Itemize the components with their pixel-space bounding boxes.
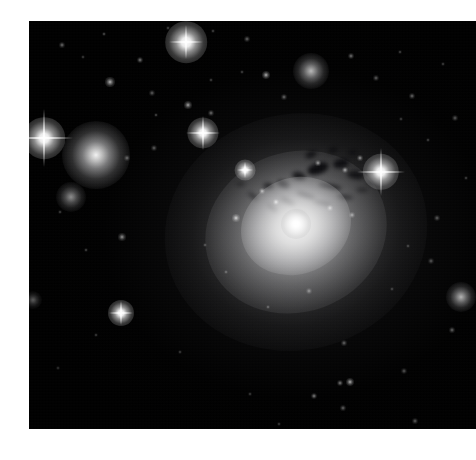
astronomical-image [29,21,476,429]
sky-background [29,21,476,429]
page-root [0,0,476,460]
